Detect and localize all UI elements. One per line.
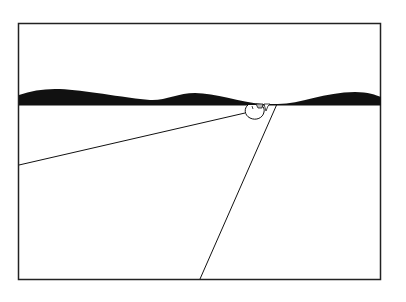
illustration-canvas — [0, 0, 406, 302]
frame-border — [19, 24, 381, 280]
